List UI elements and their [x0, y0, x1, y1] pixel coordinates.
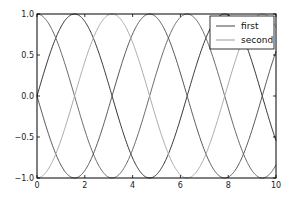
x-tick-label: 0 — [34, 181, 39, 190]
y-tick-label: −0.5 — [15, 133, 34, 142]
x-tick-label: 10 — [271, 181, 281, 190]
y-tick-label: 0.5 — [21, 51, 34, 60]
line-chart: 0246810 1.00.50.0−0.5−1.0 first second — [0, 0, 291, 199]
y-tick-label: 0.0 — [21, 92, 34, 101]
x-tick-label: 8 — [226, 181, 231, 190]
legend-label-second: second — [241, 35, 273, 45]
x-tick-label: 6 — [178, 181, 183, 190]
y-tick-label: 1.0 — [21, 10, 34, 19]
legend-label-first: first — [241, 21, 259, 31]
x-tick-label: 4 — [130, 181, 135, 190]
y-tick-label: −1.0 — [15, 174, 34, 183]
legend: first second — [210, 16, 274, 49]
x-tick-label: 2 — [82, 181, 87, 190]
